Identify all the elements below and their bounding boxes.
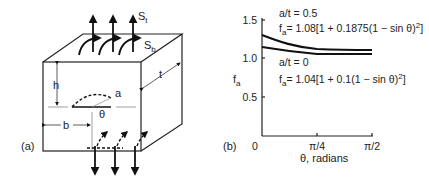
- stress-bending-label: Sb: [144, 39, 156, 54]
- dimension-h-label: h: [53, 79, 59, 91]
- bending-arrows-bottom: [87, 132, 147, 148]
- y-tick-1.0: 1.0: [242, 52, 257, 64]
- x-tick-0: 0: [252, 140, 258, 152]
- figure-canvas: St Sb t h a θ b (a): [0, 0, 429, 187]
- curve2-equation: fa= 1.04[1 + 0.1(1 − sin θ)2]: [279, 72, 406, 88]
- angle-label: θ: [99, 108, 105, 120]
- curve1-equation: fa= 1.08[1 + 0.1875(1 − sin θ)2]: [279, 21, 423, 37]
- dimension-b-label: b: [63, 119, 69, 131]
- block-right-face: [141, 34, 182, 151]
- y-tick-1.5: 1.5: [242, 14, 257, 26]
- panel-b-label: (b): [223, 140, 236, 152]
- x-axis-label: θ, radians: [300, 152, 349, 164]
- panel-a-label: (a): [21, 140, 34, 152]
- tension-arrows-bottom: [95, 146, 135, 174]
- y-axis-label: fa: [233, 73, 241, 88]
- x-tick-pi-2: π/2: [364, 140, 380, 152]
- crack: [72, 95, 111, 107]
- bending-arrows-top: [79, 38, 140, 55]
- curve2-title: a/t = 0: [279, 56, 309, 68]
- curve-a-t-0.5: [262, 35, 372, 50]
- crack-length-label: a: [115, 87, 122, 99]
- x-tick-pi-4: π/4: [309, 140, 325, 152]
- y-tick-0.5: 0.5: [242, 91, 257, 103]
- stress-tension-label: St: [138, 10, 148, 25]
- dimension-t-label: t: [159, 68, 162, 80]
- curve1-title: a/t = 0.5: [279, 7, 317, 19]
